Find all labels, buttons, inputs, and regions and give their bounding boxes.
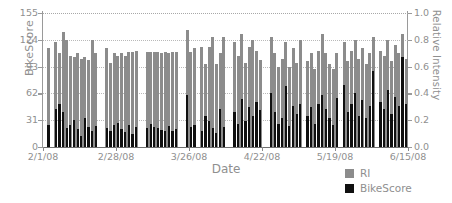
bar-bikescore xyxy=(390,114,392,147)
legend-item-ri: RI xyxy=(345,168,412,179)
bar-bikescore xyxy=(160,130,162,147)
bar-bikescore xyxy=(146,128,148,147)
bar-bikescore xyxy=(208,121,210,147)
bar-bikescore xyxy=(233,112,235,147)
bar-bikescore xyxy=(401,57,403,147)
bar-bikescore xyxy=(306,116,308,147)
y-axis-right-tick-label: 0.6 xyxy=(414,61,446,72)
y-axis-right-tick xyxy=(408,67,412,68)
legend-swatch-ri xyxy=(345,169,354,178)
bar-bikescore xyxy=(354,93,356,147)
bar-ri xyxy=(131,52,134,147)
y-axis-right-tick xyxy=(408,13,412,14)
bar-bikescore xyxy=(223,127,225,147)
bar-bikescore xyxy=(241,99,243,147)
bar-bikescore xyxy=(369,106,371,147)
y-axis-left-tick xyxy=(38,67,42,68)
bar-bikescore xyxy=(157,128,159,147)
bar-bikescore xyxy=(244,121,246,147)
bar-bikescore xyxy=(347,112,349,147)
bar-bikescore xyxy=(120,129,122,147)
bar-bikescore xyxy=(379,102,381,147)
bar-bikescore xyxy=(343,85,345,147)
y-axis-left-tick-label: 62 xyxy=(0,87,38,98)
y-axis-left-tick xyxy=(38,40,42,41)
bar-bikescore xyxy=(299,104,301,147)
bar-bikescore xyxy=(204,116,206,147)
bar-bikescore xyxy=(259,110,261,147)
bar-bikescore xyxy=(150,124,152,147)
bar-bikescore xyxy=(62,112,64,147)
gridline xyxy=(43,13,408,14)
y-axis-right-tick xyxy=(408,40,412,41)
bar-bikescore xyxy=(131,134,133,147)
bar-bikescore xyxy=(117,123,119,147)
bar-bikescore xyxy=(135,127,137,147)
bar-bikescore xyxy=(87,127,89,147)
bar-bikescore xyxy=(405,104,407,147)
legend-label-ri: RI xyxy=(360,168,370,179)
bar-bikescore xyxy=(248,107,250,147)
x-axis-tick-label: 6/15/08 xyxy=(390,151,427,162)
legend-swatch-bikescore xyxy=(345,184,354,193)
plot-area xyxy=(43,13,408,147)
y-axis-left-tick-label: 93 xyxy=(0,61,38,72)
bar-bikescore xyxy=(398,106,400,147)
bar-bikescore xyxy=(201,131,203,147)
y-axis-right-tick-label: 0.8 xyxy=(414,34,446,45)
bar-bikescore xyxy=(175,129,177,147)
y-axis-left-tick-label: 155 xyxy=(0,7,38,18)
bar-bikescore xyxy=(80,136,82,147)
legend-item-bikescore: BikeScore xyxy=(345,183,412,194)
bar-bikescore xyxy=(277,124,279,147)
y-axis-right-tick xyxy=(408,120,412,121)
bar-bikescore xyxy=(58,104,60,147)
bar-bikescore xyxy=(281,118,283,147)
y-axis-left-tick xyxy=(38,13,42,14)
bar-bikescore xyxy=(212,128,214,147)
y-axis-left-tick xyxy=(38,120,42,121)
bar-bikescore xyxy=(350,104,352,147)
bar-bikescore xyxy=(314,124,316,147)
bar-bikescore xyxy=(383,109,385,147)
bar-bikescore xyxy=(124,132,126,147)
bar-bikescore xyxy=(164,131,166,147)
bar-bikescore xyxy=(285,86,287,147)
bar-bikescore xyxy=(55,109,57,147)
x-axis-tick-label: 3/26/08 xyxy=(171,151,208,162)
y-axis-right-tick xyxy=(408,93,412,94)
bar-bikescore xyxy=(274,112,276,147)
bar-bikescore xyxy=(328,118,330,147)
bar-bikescore xyxy=(292,106,294,147)
x-axis-tick-label: 5/19/08 xyxy=(317,151,354,162)
bar-bikescore xyxy=(365,118,367,147)
bar-bikescore xyxy=(387,90,389,147)
y-axis-left-tick xyxy=(38,93,42,94)
bar-bikescore xyxy=(215,133,217,147)
bar-bikescore xyxy=(358,116,360,147)
y-axis-right-tick-label: 0.2 xyxy=(414,114,446,125)
bar-bikescore xyxy=(219,109,221,147)
bar-bikescore xyxy=(310,107,312,147)
bar-bikescore xyxy=(113,125,115,147)
legend-label-bikescore: BikeScore xyxy=(360,183,412,194)
x-axis-tick-label: 2/28/08 xyxy=(98,151,135,162)
bar-bikescore xyxy=(77,129,79,147)
x-axis-line xyxy=(43,147,408,148)
x-axis-tick-label: 4/22/08 xyxy=(244,151,281,162)
bar-bikescore xyxy=(296,114,298,147)
bar-bikescore xyxy=(190,127,192,147)
bar-bikescore xyxy=(394,97,396,147)
bar-bikescore xyxy=(73,120,75,147)
bar-bikescore xyxy=(91,131,93,147)
bar-bikescore xyxy=(171,131,173,147)
bar-bikescore xyxy=(168,126,170,147)
bar-bikescore xyxy=(66,128,68,147)
y-axis-left-tick xyxy=(38,147,42,148)
x-axis-tick-label: 2/1/08 xyxy=(28,151,59,162)
bar-bikescore xyxy=(69,125,71,147)
bar-bikescore xyxy=(95,126,97,147)
bar-bikescore xyxy=(325,109,327,147)
bar-bikescore xyxy=(47,125,49,147)
bar-bikescore xyxy=(317,104,319,147)
